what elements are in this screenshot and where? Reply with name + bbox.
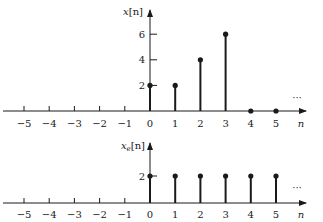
stem-marker: [273, 108, 278, 113]
x-tick-label: 2: [197, 118, 203, 129]
x-axis-label: n: [298, 209, 304, 220]
x-tick-label: −3: [67, 209, 82, 220]
x-tick-label: 3: [222, 209, 228, 220]
y-tick-label: 2: [139, 171, 145, 182]
y-axis-label: x[n]: [123, 6, 143, 17]
x-axis-label: n: [298, 118, 304, 129]
x-tick-label: 2: [197, 209, 203, 220]
plot-x: x[n] 246 −5−4−3−2−1012345 n ···: [3, 6, 306, 129]
continuation-ellipsis: ···: [292, 92, 302, 103]
x-tick-label: −5: [17, 209, 32, 220]
stem-marker: [147, 83, 152, 88]
x-tick-label: −2: [92, 209, 107, 220]
x-ticks: −5−4−3−2−1012345: [17, 106, 280, 129]
x-tick-label: 4: [248, 118, 254, 129]
x-tick-label: −4: [42, 209, 57, 220]
stems: [147, 173, 278, 203]
x-tick-label: 3: [222, 118, 228, 129]
stem-plot-figure: x[n] 246 −5−4−3−2−1012345 n ··· xe[n] 2 …: [0, 0, 323, 222]
stem-marker: [173, 83, 178, 88]
stem-marker: [147, 173, 152, 178]
x-tick-label: −3: [67, 118, 82, 129]
x-tick-label: −4: [42, 118, 57, 129]
x-tick-label: 4: [248, 209, 254, 220]
x-tick-label: 0: [147, 118, 153, 129]
x-tick-label: −1: [117, 118, 132, 129]
x-tick-label: −5: [17, 118, 32, 129]
stem-marker: [248, 108, 253, 113]
x-tick-label: −2: [92, 118, 107, 129]
stem-marker: [248, 173, 253, 178]
x-tick-label: 1: [172, 118, 178, 129]
stem-marker: [223, 173, 228, 178]
stems: [147, 32, 278, 114]
y-tick-label: 6: [139, 29, 145, 40]
x-ticks: −5−4−3−2−1012345: [17, 198, 280, 220]
y-ticks: 246: [139, 29, 157, 91]
stem-marker: [223, 32, 228, 37]
x-tick-label: 5: [273, 118, 279, 129]
y-tick-label: 4: [139, 54, 145, 65]
continuation-ellipsis: ···: [292, 182, 302, 193]
x-tick-label: 0: [147, 209, 153, 220]
stem-marker: [173, 173, 178, 178]
stem-marker: [198, 57, 203, 62]
y-axis-label: xe[n]: [121, 140, 145, 153]
x-tick-label: −1: [117, 209, 132, 220]
x-tick-label: 5: [273, 209, 279, 220]
stem-marker: [198, 173, 203, 178]
plot-xe: xe[n] 2 −5−4−3−2−1012345 n ···: [3, 140, 306, 220]
y-tick-label: 2: [139, 80, 145, 91]
stem-marker: [273, 173, 278, 178]
x-tick-label: 1: [172, 209, 178, 220]
